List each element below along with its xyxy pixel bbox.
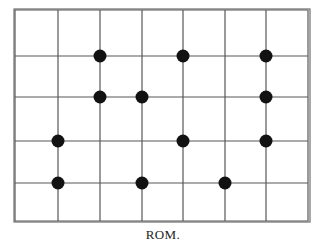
data-point-marker-10 <box>52 177 65 190</box>
data-point-marker-3 <box>260 50 273 63</box>
data-point-marker-11 <box>136 177 149 190</box>
data-point-marker-7 <box>52 135 65 148</box>
figure-root: ROM. <box>0 0 326 250</box>
data-point-marker-1 <box>94 50 107 63</box>
data-point-marker-12 <box>219 177 232 190</box>
data-point-marker-6 <box>260 91 273 104</box>
grid-diagram <box>0 0 326 250</box>
data-point-marker-5 <box>136 91 149 104</box>
data-point-marker-8 <box>177 135 190 148</box>
data-point-marker-4 <box>94 91 107 104</box>
figure-caption: ROM. <box>0 227 326 243</box>
data-point-marker-9 <box>260 135 273 148</box>
data-point-marker-2 <box>177 50 190 63</box>
figure-background <box>0 0 326 250</box>
